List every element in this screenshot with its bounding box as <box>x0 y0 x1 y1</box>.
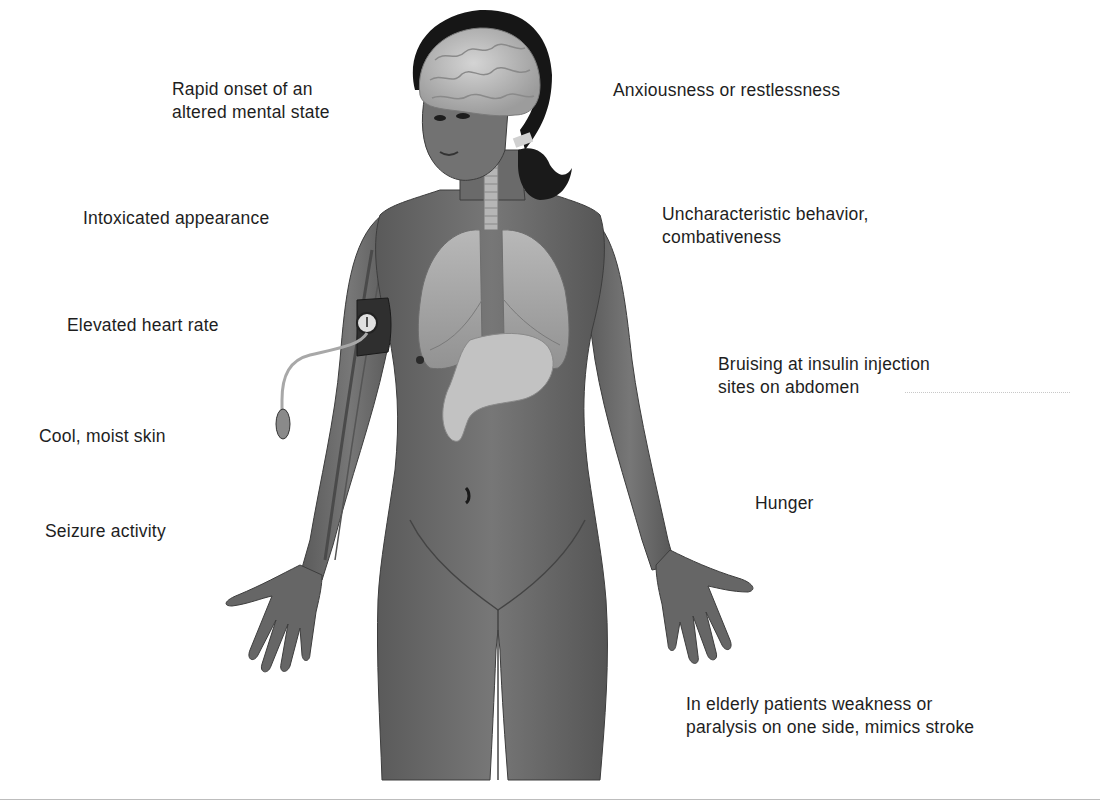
label-line: Elevated heart rate <box>67 314 219 337</box>
label-line: paralysis on one side, mimics stroke <box>686 716 974 739</box>
left-arm <box>226 215 400 672</box>
label-anxiousness: Anxiousness or restlessness <box>613 79 840 102</box>
dotted-leader <box>905 392 1070 394</box>
eye-right <box>456 113 470 119</box>
label-line: Anxiousness or restlessness <box>613 79 840 102</box>
inflation-bulb-icon <box>276 409 290 439</box>
label-uncharacteristic-behavior: Uncharacteristic behavior, combativeness <box>662 203 869 249</box>
label-intoxicated-appearance: Intoxicated appearance <box>83 207 269 230</box>
label-altered-mental-state: Rapid onset of an altered mental state <box>172 78 330 124</box>
label-seizure-activity: Seizure activity <box>45 520 166 543</box>
torso <box>376 190 608 780</box>
label-line: Bruising at insulin injection <box>718 353 930 376</box>
label-hunger: Hunger <box>755 492 814 515</box>
label-line: Rapid onset of an <box>172 78 330 101</box>
label-line: altered mental state <box>172 101 330 124</box>
label-elevated-heart-rate: Elevated heart rate <box>67 314 219 337</box>
nipple <box>416 356 424 364</box>
label-line: In elderly patients weakness or <box>686 693 974 716</box>
label-cool-moist-skin: Cool, moist skin <box>39 425 166 448</box>
label-elderly-stroke-mimic: In elderly patients weakness or paralysi… <box>686 693 974 739</box>
eye-left <box>434 115 446 121</box>
label-bruising-injection-sites: Bruising at insulin injection sites on a… <box>718 353 930 399</box>
label-line: Hunger <box>755 492 814 515</box>
label-line: Uncharacteristic behavior, <box>662 203 869 226</box>
label-line: Intoxicated appearance <box>83 207 269 230</box>
body-figure <box>0 0 1100 805</box>
label-line: combativeness <box>662 226 869 249</box>
label-line: Seizure activity <box>45 520 166 543</box>
bottom-divider <box>0 799 1100 800</box>
right-arm <box>585 215 753 663</box>
label-line: sites on abdomen <box>718 376 930 399</box>
label-line: Cool, moist skin <box>39 425 166 448</box>
